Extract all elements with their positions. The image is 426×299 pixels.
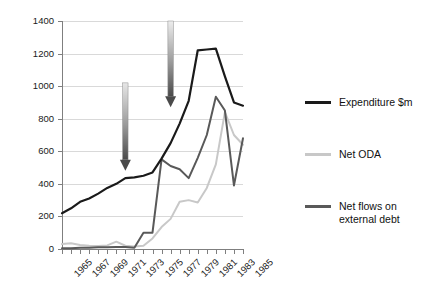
x-axis-tick: [71, 250, 72, 254]
y-axis-label: 1200: [20, 49, 54, 59]
legend-swatch-icon: [305, 101, 331, 104]
legend-label: Net flows on external debt: [339, 200, 423, 226]
x-axis-label: 1979: [199, 257, 221, 279]
y-axis-label: 0: [20, 244, 54, 254]
y-axis-tick: [58, 184, 62, 185]
legend-item: Net flows on external debt: [305, 200, 423, 226]
x-axis-label: 1977: [181, 257, 203, 279]
x-axis-tick: [216, 250, 217, 254]
legend-label: Expenditure $m: [339, 96, 413, 109]
x-axis-tick: [125, 250, 126, 254]
x-axis-tick: [89, 250, 90, 254]
x-axis-tick: [116, 250, 117, 254]
gridline: [62, 151, 243, 152]
x-axis-tick: [234, 250, 235, 254]
gridline: [62, 216, 243, 217]
gridline: [62, 184, 243, 185]
chart-figure: 0200400600800100012001400 Expenditure $m…: [0, 0, 426, 299]
y-axis-labels: 0200400600800100012001400: [14, 0, 54, 299]
x-axis-tick: [171, 250, 172, 254]
y-axis-label: 200: [20, 211, 54, 221]
legend-item: Expenditure $m: [305, 96, 413, 109]
y-axis-label: 400: [20, 179, 54, 189]
y-axis-tick: [58, 216, 62, 217]
legend-label: Net ODA: [339, 148, 381, 161]
legend-swatch-icon: [305, 205, 331, 208]
legend-swatch-icon: [305, 153, 331, 156]
x-axis-tick: [98, 250, 99, 254]
x-axis-label: 1975: [163, 257, 185, 279]
x-axis-tick: [189, 250, 190, 254]
x-axis-tick: [180, 250, 181, 254]
y-axis-tick: [58, 21, 62, 22]
x-axis-tick: [162, 250, 163, 254]
y-axis-label: 1400: [20, 16, 54, 26]
x-axis-label: 1973: [145, 257, 167, 279]
y-axis-line: [62, 21, 63, 250]
gridline: [62, 21, 243, 22]
x-axis-tick: [198, 250, 199, 254]
x-axis-tick: [107, 250, 108, 254]
gridline: [62, 86, 243, 87]
gridline: [62, 54, 243, 55]
y-axis-tick: [58, 119, 62, 120]
y-axis-label: 600: [20, 146, 54, 156]
y-axis-label: 1000: [20, 81, 54, 91]
x-axis-tick: [143, 250, 144, 254]
x-axis-label: 1981: [217, 257, 239, 279]
x-axis-tick: [134, 250, 135, 254]
gridline: [62, 119, 243, 120]
x-axis-tick: [207, 250, 208, 254]
y-axis-tick: [58, 151, 62, 152]
x-axis-label: 1985: [253, 257, 275, 279]
x-axis-tick: [80, 250, 81, 254]
y-axis-tick: [58, 86, 62, 87]
plot-area: [62, 21, 243, 249]
y-axis-tick: [58, 54, 62, 55]
x-axis-tick: [243, 250, 244, 254]
x-axis-tick: [62, 250, 63, 254]
x-axis-tick: [153, 250, 154, 254]
x-axis-tick: [225, 250, 226, 254]
legend-item: Net ODA: [305, 148, 381, 161]
y-axis-label: 800: [20, 114, 54, 124]
